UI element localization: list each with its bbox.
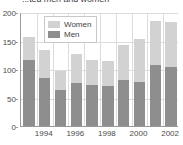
bar-group[interactable] [71,54,82,126]
legend-label-men: Men [64,30,80,39]
bar-segment-men[interactable] [150,65,161,126]
y-tick-mark [15,70,18,71]
bar-segment-men[interactable] [55,90,66,126]
bar-segment-women[interactable] [39,50,50,77]
bar-segment-men[interactable] [165,67,176,126]
bar-segment-men[interactable] [23,60,34,126]
y-tick-mark [15,99,18,100]
bar-group[interactable] [86,60,97,126]
y-axis: 050100150200 [0,13,18,127]
bar-group[interactable] [134,39,145,126]
bar-segment-men[interactable] [71,83,82,126]
bar-group[interactable] [165,22,176,126]
legend-swatch-men [48,31,60,38]
y-tick-label: 200 [3,9,16,18]
bar-segment-men[interactable] [86,85,97,126]
bar-group[interactable] [55,71,66,126]
x-tick-label: 2002 [161,129,179,138]
legend-label-women: Women [64,20,91,29]
bar-segment-women[interactable] [118,45,129,80]
legend-item-men: Men [48,30,91,39]
stacked-bar-chart: ...ted men and women 050100150200 199419… [0,0,183,145]
bar-segment-women[interactable] [165,22,176,67]
x-axis: 19941996199820002002 [20,129,178,143]
bar-group[interactable] [118,45,129,127]
x-tick-label: 1994 [35,129,53,138]
gridline-vertical [116,13,117,126]
bar-segment-women[interactable] [134,39,145,82]
bar-group[interactable] [102,61,113,126]
bar-segment-men[interactable] [118,80,129,126]
bar-group[interactable] [39,50,50,126]
bar-group[interactable] [150,21,161,126]
bar-segment-men[interactable] [102,86,113,126]
bar-segment-women[interactable] [86,60,97,85]
bar-segment-women[interactable] [23,37,34,60]
gridline-vertical [37,13,38,126]
x-tick-label: 1996 [66,129,84,138]
bar-group[interactable] [23,37,34,126]
y-tick-mark [15,13,18,14]
legend-item-women: Women [48,20,91,29]
y-tick-mark [15,127,18,128]
bar-segment-men[interactable] [39,78,50,126]
gridline-vertical [100,13,101,126]
bar-segment-women[interactable] [55,71,66,90]
y-tick-label: 150 [3,37,16,46]
gridline-vertical [147,13,148,126]
bar-segment-men[interactable] [134,82,145,126]
y-tick-label: 100 [3,66,16,75]
x-tick-label: 1998 [98,129,116,138]
gridline-vertical [163,13,164,126]
x-tick-label: 2000 [130,129,148,138]
y-tick-mark [15,42,18,43]
legend-swatch-women [48,21,60,28]
bar-segment-women[interactable] [102,61,113,86]
chart-legend: Women Men [44,16,97,43]
bar-segment-women[interactable] [71,54,82,83]
bar-segment-women[interactable] [150,21,161,65]
chart-title: ...ted men and women [22,0,182,4]
